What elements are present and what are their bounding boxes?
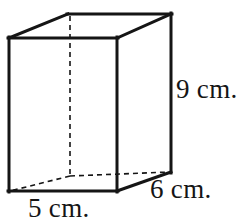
- front-face: [9, 38, 117, 191]
- right-face: [117, 14, 171, 191]
- depth-label: 6 cm.: [150, 176, 212, 203]
- height-label: 9 cm.: [176, 76, 238, 103]
- rectangular-prism-figure: 9 cm. 6 cm. 5 cm.: [0, 0, 240, 223]
- width-label: 5 cm.: [28, 195, 90, 222]
